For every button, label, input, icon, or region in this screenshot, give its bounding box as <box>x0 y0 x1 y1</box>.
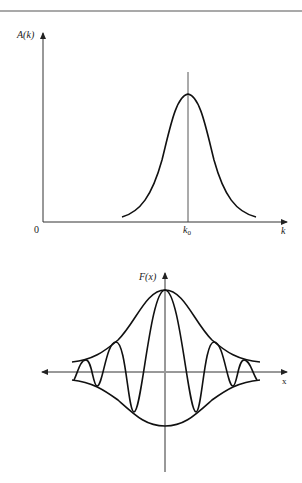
origin-label: 0 <box>34 224 39 235</box>
k0-label: k0 <box>183 224 191 237</box>
y-axis-label-Fx: F(x) <box>138 271 157 283</box>
x-axis-label-x: x <box>282 376 287 386</box>
y-axis-label-Ak: A(k) <box>16 29 35 41</box>
lower-envelope-curve <box>72 380 260 426</box>
upper-envelope-curve <box>72 290 260 362</box>
top-plot: A(k) 0 k0 k <box>16 29 287 237</box>
gaussian-curve <box>122 94 256 217</box>
figure-canvas: A(k) 0 k0 k F(x) x <box>0 0 302 483</box>
bottom-plot: F(x) x <box>42 271 287 472</box>
x-axis-label-k: k <box>281 225 286 236</box>
k0-label-subscript: 0 <box>187 229 191 237</box>
